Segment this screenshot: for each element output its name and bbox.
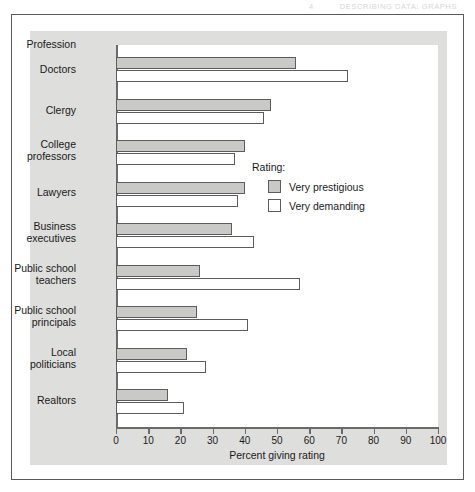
category-label-lawyers: Lawyers — [0, 187, 76, 199]
bar-prestigious-lawyers — [116, 182, 245, 194]
bar-demanding-college-professors — [116, 153, 235, 165]
bar-prestigious-doctors — [116, 57, 296, 69]
x-tick-label-100: 100 — [423, 435, 453, 446]
legend: Rating: Very prestigious Very demanding — [252, 161, 365, 218]
x-tick-label-40: 40 — [230, 435, 260, 446]
x-tick-10 — [148, 427, 149, 434]
bar-demanding-local-politicians — [116, 361, 206, 373]
x-tick-label-70: 70 — [326, 435, 356, 446]
x-tick-0 — [116, 427, 117, 434]
x-axis-title: Percent giving rating — [116, 449, 438, 461]
running-head: 4DESCRIBING DATA: GRAPHS — [0, 0, 475, 14]
x-tick-label-30: 30 — [198, 435, 228, 446]
x-tick-label-50: 50 — [262, 435, 292, 446]
x-tick-60 — [309, 427, 310, 434]
category-label-doctors: Doctors — [0, 64, 76, 76]
x-tick-80 — [374, 427, 375, 434]
x-tick-label-80: 80 — [359, 435, 389, 446]
x-tick-label-20: 20 — [165, 435, 195, 446]
chart-panel: Profession Doctors Clergy College profes… — [30, 31, 447, 465]
legend-swatch-demanding — [268, 199, 281, 212]
category-label-public-school-principals: Public school principals — [0, 305, 76, 328]
category-label-college-professors: College professors — [0, 139, 76, 162]
legend-item-very-prestigious: Very prestigious — [268, 180, 365, 193]
bar-prestigious-business-executives — [116, 223, 232, 235]
legend-title: Rating: — [252, 161, 365, 173]
category-label-clergy: Clergy — [0, 105, 76, 117]
bar-demanding-public-school-teachers — [116, 278, 300, 290]
x-tick-label-0: 0 — [101, 435, 131, 446]
bar-demanding-public-school-principals — [116, 319, 248, 331]
legend-swatch-prestigious — [268, 180, 281, 193]
bar-demanding-doctors — [116, 70, 348, 82]
x-tick-label-60: 60 — [294, 435, 324, 446]
x-tick-30 — [213, 427, 214, 434]
bar-prestigious-public-school-principals — [116, 306, 197, 318]
bar-prestigious-college-professors — [116, 140, 245, 152]
category-label-realtors: Realtors — [0, 395, 76, 407]
page-folio: 4 — [309, 2, 314, 11]
figure-frame: Profession Doctors Clergy College profes… — [11, 14, 464, 480]
bar-demanding-business-executives — [116, 236, 254, 248]
x-tick-20 — [180, 427, 181, 434]
x-tick-label-90: 90 — [391, 435, 421, 446]
bar-prestigious-realtors — [116, 389, 168, 401]
category-label-local-politicians: Local politicians — [0, 347, 76, 370]
x-tick-90 — [406, 427, 407, 434]
bar-prestigious-local-politicians — [116, 348, 187, 360]
bar-prestigious-clergy — [116, 99, 271, 111]
legend-label-prestigious: Very prestigious — [289, 181, 364, 193]
bar-demanding-lawyers — [116, 195, 238, 207]
category-label-public-school-teachers: Public school teachers — [0, 263, 76, 286]
x-tick-70 — [341, 427, 342, 434]
x-tick-label-10: 10 — [133, 435, 163, 446]
running-head-title: DESCRIBING DATA: GRAPHS — [340, 2, 457, 11]
bar-demanding-clergy — [116, 112, 264, 124]
y-axis-title: Profession — [0, 39, 76, 51]
legend-item-very-demanding: Very demanding — [268, 199, 365, 212]
x-tick-40 — [245, 427, 246, 434]
legend-label-demanding: Very demanding — [289, 200, 365, 212]
x-tick-50 — [277, 427, 278, 434]
bar-demanding-realtors — [116, 402, 184, 414]
bar-prestigious-public-school-teachers — [116, 265, 200, 277]
x-tick-100 — [438, 427, 439, 434]
category-label-business-executives: Business executives — [0, 221, 76, 244]
